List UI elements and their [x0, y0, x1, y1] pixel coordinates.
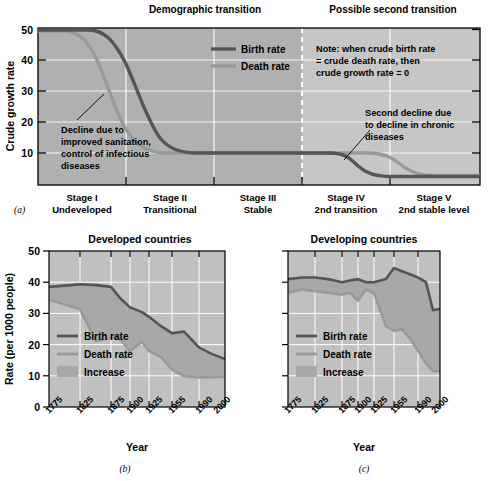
- panel-b-ytick-0: 0: [34, 401, 40, 413]
- note-line-1: Note: when crude birth rate: [316, 44, 435, 54]
- stage-5-name: Stage V: [417, 192, 453, 203]
- panel-b-ytick-20: 20: [28, 339, 40, 351]
- legend-label-death-rate-a: Death rate: [241, 61, 290, 72]
- stage-3-sub: Stable: [244, 204, 273, 215]
- annotation-left-line-4: diseases: [61, 161, 100, 171]
- panel-c-title: Developing countries: [311, 233, 418, 245]
- panel-b-ytick-50: 50: [28, 245, 40, 257]
- stage-3-name: Stage III: [240, 192, 276, 203]
- panel-c-y-ticks: [282, 251, 288, 407]
- stage-4-sub: 2nd transition: [315, 204, 378, 215]
- panel-b-ytick-40: 40: [28, 276, 40, 288]
- panel-a-ytick-20: 20: [21, 116, 33, 128]
- panel-b-ylabel: Rate (per 1000 people): [3, 273, 15, 385]
- panel-b-title: Developed countries: [88, 233, 191, 245]
- panel-a-ytick-40: 40: [21, 54, 33, 66]
- legend-label-increase-b: Increase: [84, 367, 125, 378]
- annotation-right-line-3: diseases: [365, 132, 404, 142]
- stage-4-name: Stage IV: [327, 192, 365, 203]
- panel-c: Developing countries: [240, 232, 490, 481]
- note-line-3: crude growth rate = 0: [316, 68, 409, 78]
- annotation-left-line-2: improved sanitation,: [61, 137, 151, 147]
- panel-a-ylabel: Crude growth rate: [4, 61, 16, 152]
- note-line-2: = crude death rate, then: [316, 56, 420, 66]
- panel-b-xlabel: Year: [126, 441, 148, 453]
- legend-swatch-increase-b: [57, 366, 78, 377]
- panel-a: Demographic transition Possible second t…: [0, 0, 490, 228]
- legend-swatch-increase-c: [296, 366, 317, 377]
- legend-label-death-rate-c: Death rate: [323, 349, 372, 360]
- stage-5-sub: 2nd stable level: [399, 204, 470, 215]
- panel-c-xlabel: Year: [353, 441, 375, 453]
- annotation-right-line-1: Second decline due: [365, 108, 451, 118]
- annotation-left-line-3: control of infectious: [61, 149, 149, 159]
- panel-b-y-ticks: [43, 251, 49, 407]
- legend-label-birth-rate-c: Birth rate: [323, 331, 368, 342]
- panel-c-label: (c): [359, 464, 370, 475]
- panel-a-ytick-10: 10: [21, 147, 33, 159]
- panel-a-header-right: Possible second transition: [329, 4, 456, 15]
- panel-a-stage-labels: Stage I Undeveloped Stage II Transitiona…: [52, 192, 469, 215]
- panel-b-ytick-30: 30: [28, 307, 40, 319]
- stage-2-sub: Transitional: [143, 204, 196, 215]
- panel-b-label: (b): [119, 464, 130, 475]
- panel-b: Developed countries: [0, 232, 250, 481]
- panel-a-header-left: Demographic transition: [149, 4, 261, 15]
- panel-a-label: (a): [14, 205, 25, 216]
- legend-label-birth-rate-a: Birth rate: [241, 44, 286, 55]
- stage-2-name: Stage II: [153, 192, 187, 203]
- panel-b-svg: Developed countries: [0, 232, 250, 481]
- annotation-left-line-1: Decline due to: [61, 125, 124, 135]
- legend-label-birth-rate-b: Birth rate: [84, 331, 129, 342]
- annotation-right-line-2: to decline in chronic: [365, 120, 454, 130]
- stage-1-name: Stage I: [66, 192, 97, 203]
- legend-label-increase-c: Increase: [323, 367, 364, 378]
- panel-c-svg: Developing countries: [240, 232, 490, 481]
- panel-a-ytick-50: 50: [21, 24, 33, 36]
- legend-label-death-rate-b: Death rate: [84, 349, 133, 360]
- panel-a-ytick-30: 30: [21, 85, 33, 97]
- panel-b-ytick-10: 10: [28, 370, 40, 382]
- stage-1-sub: Undeveloped: [52, 204, 112, 215]
- panel-a-svg: Demographic transition Possible second t…: [0, 0, 490, 228]
